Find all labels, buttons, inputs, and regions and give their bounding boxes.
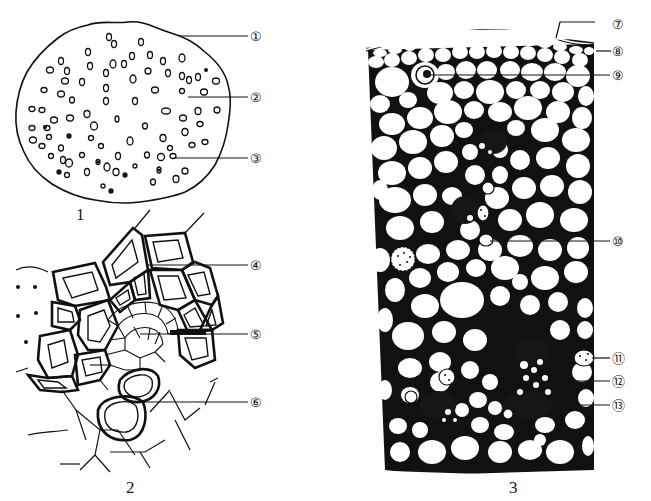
label-13: ⑬ — [612, 398, 625, 413]
figure-1-stem-cross-section: 1 — [16, 22, 248, 224]
label-8: ⑧ — [612, 44, 624, 59]
label-10: ⑩ — [612, 234, 624, 249]
figure-3-caption: 3 — [509, 478, 518, 497]
label-3: ③ — [250, 151, 262, 166]
label-7: ⑦ — [612, 17, 624, 32]
label-5: ⑤ — [250, 327, 262, 342]
label-9: ⑨ — [612, 68, 624, 83]
dark-bundles — [43, 68, 208, 193]
label-12: ⑫ — [612, 374, 625, 389]
diagram-canvas: 1 — [0, 0, 651, 501]
figure-1-caption: 1 — [76, 205, 85, 224]
secretory-cell — [423, 70, 431, 78]
label-4: ④ — [250, 258, 262, 273]
figure-2-caption: 2 — [126, 478, 135, 497]
vascular-bundles — [29, 34, 220, 194]
label-6: ⑥ — [250, 395, 262, 410]
label-1: ① — [250, 29, 262, 44]
label-2: ② — [250, 90, 262, 105]
figure-3-partial-section: 3 — [360, 22, 651, 501]
label-11: ⑪ — [612, 351, 625, 366]
figure-2-vascular-bundle: 2 — [16, 210, 248, 497]
